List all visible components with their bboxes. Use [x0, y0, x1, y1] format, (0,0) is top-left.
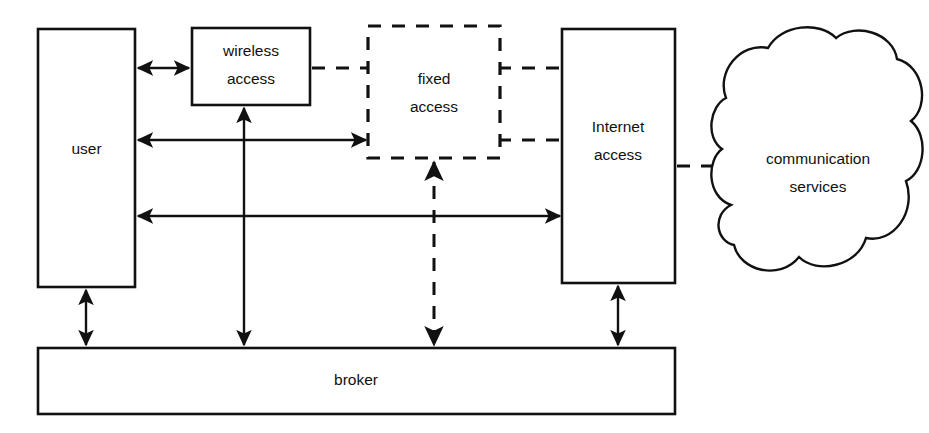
fixed-access-label-line2: access	[410, 98, 458, 115]
internet-access-label-line2: access	[594, 146, 642, 163]
internet-access-label-line1: Internet	[592, 118, 645, 135]
wireless-access-box[interactable]	[192, 28, 310, 105]
user-label: user	[71, 140, 101, 157]
communication-services-label-line2: services	[790, 178, 847, 195]
cloud-icon[interactable]	[711, 27, 922, 270]
architecture-diagram: user wireless access fixed access Intern…	[0, 0, 929, 433]
node-user[interactable]: user	[38, 29, 135, 287]
wireless-access-label-line1: wireless	[222, 42, 279, 59]
fixed-access-label-line1: fixed	[418, 70, 451, 87]
node-wireless-access[interactable]: wireless access	[192, 28, 310, 105]
diagram-canvas: user wireless access fixed access Intern…	[0, 0, 929, 433]
broker-label: broker	[334, 371, 378, 388]
fixed-access-box[interactable]	[368, 26, 500, 158]
node-broker[interactable]: broker	[38, 348, 675, 414]
node-communication-services[interactable]: communication services	[711, 27, 922, 270]
node-internet-access[interactable]: Internet access	[562, 29, 675, 283]
communication-services-label-line1: communication	[766, 150, 870, 167]
wireless-access-label-line2: access	[227, 70, 275, 87]
node-fixed-access[interactable]: fixed access	[368, 26, 500, 158]
user-box[interactable]	[38, 29, 135, 287]
